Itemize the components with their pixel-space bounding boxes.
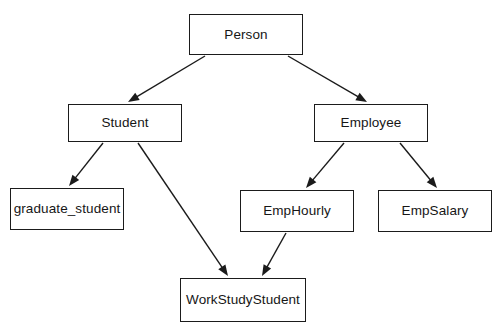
edge-student-graduate_student xyxy=(69,143,103,186)
edge-person-student xyxy=(128,56,205,102)
class-box-person[interactable]: Person xyxy=(189,14,303,55)
class-name-label: Student xyxy=(101,116,148,130)
edge-student-workstudystudent xyxy=(138,143,228,276)
edge-line xyxy=(136,56,205,97)
class-name-label: EmpHourly xyxy=(263,204,331,218)
edge-line xyxy=(266,233,286,268)
class-box-student[interactable]: Student xyxy=(68,104,182,142)
class-box-employee[interactable]: Employee xyxy=(314,104,428,142)
arrowhead-icon xyxy=(427,177,437,188)
class-name-label: graduate_student xyxy=(14,202,121,216)
class-diagram-canvas: PersonStudentEmployeegraduate_studentEmp… xyxy=(0,0,500,332)
arrowhead-icon xyxy=(69,175,79,186)
arrowhead-icon xyxy=(355,93,367,102)
edge-line xyxy=(400,143,431,181)
edge-person-employee xyxy=(288,56,367,102)
class-box-emphourly[interactable]: EmpHourly xyxy=(240,190,354,232)
edge-line xyxy=(288,56,359,97)
class-box-empsalary[interactable]: EmpSalary xyxy=(378,190,492,232)
class-name-label: Employee xyxy=(341,116,402,130)
class-box-graduate_student[interactable]: graduate_student xyxy=(10,188,124,230)
class-name-label: Person xyxy=(224,28,267,42)
edge-line xyxy=(75,143,103,179)
edge-emphourly-workstudystudent xyxy=(262,233,286,276)
arrowhead-icon xyxy=(262,264,271,276)
class-box-workstudystudent[interactable]: WorkStudyStudent xyxy=(180,278,306,322)
edge-employee-empsalary xyxy=(400,143,437,188)
class-name-label: WorkStudyStudent xyxy=(186,293,300,307)
arrowhead-icon xyxy=(218,264,228,276)
edge-employee-emphourly xyxy=(306,143,344,188)
edge-line xyxy=(312,143,344,181)
edge-line xyxy=(138,143,223,269)
class-name-label: EmpSalary xyxy=(402,204,469,218)
arrowhead-icon xyxy=(128,93,140,102)
